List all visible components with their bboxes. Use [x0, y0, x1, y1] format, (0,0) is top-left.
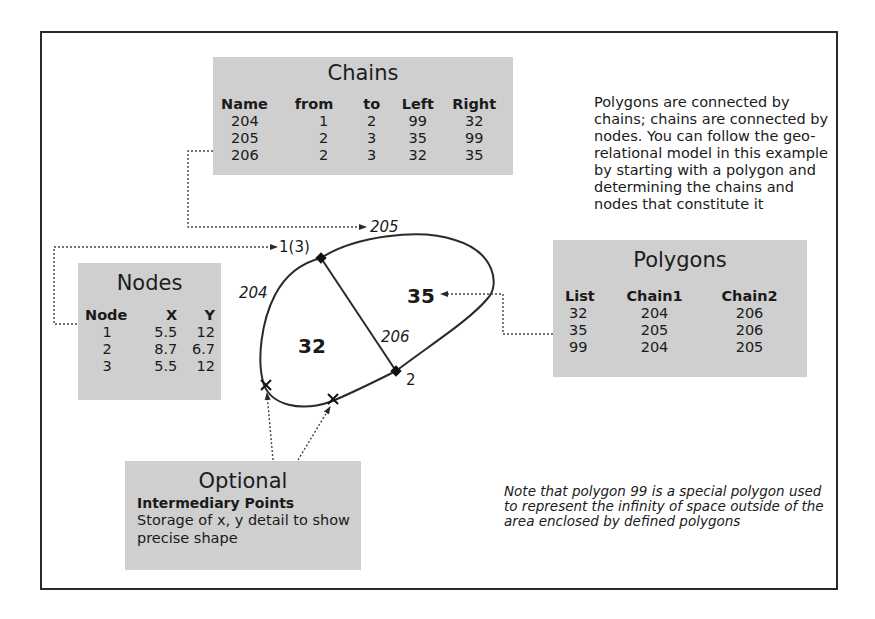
polygons-to-35-connector	[441, 294, 553, 334]
table-cell: 35	[392, 130, 443, 147]
table-header-row: List Chain1 Chain2	[565, 287, 797, 305]
table-cell: 8.7	[143, 341, 183, 358]
table-cell: 2	[295, 130, 351, 147]
optional-title: Optional	[125, 471, 361, 492]
column-header: Chain1	[607, 287, 702, 305]
table-row: 32 204 206	[565, 305, 797, 322]
table-cell: 3	[351, 147, 392, 164]
polygons-table-box: Polygons List Chain1 Chain2 32 204 206 3…	[553, 240, 807, 377]
table-cell: 6.7	[183, 341, 215, 358]
table-cell: 1	[85, 324, 143, 341]
table-row: 206 2 3 32 35	[221, 147, 505, 164]
column-header: from	[295, 95, 351, 113]
table-cell: 35	[565, 322, 607, 339]
table-header-row: Name from to Left Right	[221, 95, 505, 113]
table-cell: 5.5	[143, 324, 183, 341]
table-cell: 99	[565, 339, 607, 356]
table-cell: 205	[607, 322, 702, 339]
table-cell: 2	[295, 147, 351, 164]
chains-title: Chains	[213, 63, 513, 84]
table-cell: 206	[221, 147, 295, 164]
polygon-35-label: 35	[407, 284, 435, 308]
table-cell: 204	[221, 113, 295, 130]
table-row: 1 5.5 12	[85, 324, 215, 341]
table-row: 2 8.7 6.7	[85, 341, 215, 358]
table-cell: 205	[221, 130, 295, 147]
column-header: Y	[183, 306, 215, 324]
chain-204-label: 204	[239, 284, 268, 302]
optional-description: Storage of x, y detail to show precise s…	[137, 511, 357, 547]
polygon-32-label: 32	[298, 334, 326, 358]
node-2-label: 2	[406, 371, 416, 389]
table-row: 35 205 206	[565, 322, 797, 339]
chain-205-label: 205	[370, 218, 399, 236]
table-cell: 35	[443, 147, 505, 164]
column-header: Node	[85, 306, 143, 324]
table-cell: 12	[183, 324, 215, 341]
table-cell: 5.5	[143, 358, 183, 375]
node-1-label: 1(3)	[279, 238, 310, 256]
chains-table-box: Chains Name from to Left Right 204 1 2 9…	[213, 57, 513, 175]
optional-to-point2-connector	[298, 407, 330, 460]
table-cell: 2	[351, 113, 392, 130]
table-cell: 204	[607, 339, 702, 356]
column-header: Chain2	[702, 287, 797, 305]
column-header: Right	[443, 95, 505, 113]
column-header: X	[143, 306, 183, 324]
nodes-table-box: Nodes Node X Y 1 5.5 12 2 8.7 6.7 3 5.5 …	[78, 263, 221, 400]
table-cell: 3	[85, 358, 143, 375]
table-cell: 3	[351, 130, 392, 147]
table-cell: 206	[702, 322, 797, 339]
table-cell: 205	[702, 339, 797, 356]
table-cell: 32	[565, 305, 607, 322]
chain-206-label: 206	[381, 328, 410, 346]
model-description: Polygons are connected by chains; chains…	[594, 94, 834, 213]
column-header: to	[351, 95, 392, 113]
table-cell: 204	[607, 305, 702, 322]
table-cell: 2	[85, 341, 143, 358]
table-cell: 32	[443, 113, 505, 130]
chain-206-line	[321, 258, 396, 371]
optional-subtitle: Intermediary Points	[137, 495, 361, 511]
table-cell: 206	[702, 305, 797, 322]
polygons-title: Polygons	[553, 250, 807, 271]
optional-points-box: Optional Intermediary Points Storage of …	[125, 461, 361, 570]
nodes-table: Node X Y 1 5.5 12 2 8.7 6.7 3 5.5 12	[85, 306, 215, 375]
table-row: 99 204 205	[565, 339, 797, 356]
polygon-outline	[260, 234, 493, 406]
table-cell: 12	[183, 358, 215, 375]
table-row: 3 5.5 12	[85, 358, 215, 375]
table-cell: 99	[392, 113, 443, 130]
table-cell: 32	[392, 147, 443, 164]
node-1-marker	[315, 252, 326, 263]
nodes-title: Nodes	[78, 273, 221, 294]
table-header-row: Node X Y	[85, 306, 215, 324]
optional-to-point1-connector	[267, 393, 273, 460]
polygon-99-note: Note that polygon 99 is a special polygo…	[504, 484, 834, 529]
table-row: 204 1 2 99 32	[221, 113, 505, 130]
chains-table: Name from to Left Right 204 1 2 99 32 20…	[221, 95, 505, 164]
polygons-table: List Chain1 Chain2 32 204 206 35 205 206…	[565, 287, 797, 356]
column-header: Left	[392, 95, 443, 113]
table-cell: 99	[443, 130, 505, 147]
table-cell: 1	[295, 113, 351, 130]
table-row: 205 2 3 35 99	[221, 130, 505, 147]
column-header: Name	[221, 95, 295, 113]
column-header: List	[565, 287, 607, 305]
